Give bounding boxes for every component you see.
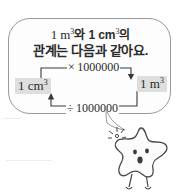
mascot-right-eye [145, 149, 149, 154]
divide-operator-symbol: ÷ [67, 101, 74, 115]
conversion-diagram: × 1000000 ÷ 1000000 1 cm3 1 m3 [9, 61, 172, 113]
unit-chip-cubic-centimeter: 1 cm3 [15, 78, 51, 94]
divide-arrowhead-icon [48, 93, 54, 100]
divide-operation-label: ÷ 1000000 [66, 102, 119, 114]
mascot-left-leg [129, 174, 132, 187]
mascot-left-foot [126, 187, 132, 189]
headline-l1-part2: 와 1 cm [74, 28, 115, 42]
mascot-right-foot [145, 187, 151, 189]
multiply-operation-label: × 1000000 [67, 61, 120, 73]
divide-factor-value: 1000000 [76, 101, 118, 115]
speech-bubble: 1 m3와 1 cm3의 관계는 다음과 같아요. × 1000000 ÷ 10… [8, 18, 171, 114]
unit-chip-cubic-meter: 1 m3 [137, 76, 167, 92]
unit-left-value: 1 cm [18, 78, 44, 93]
illustration-scene: 1 m3와 1 cm3의 관계는 다음과 같아요. × 1000000 ÷ 10… [0, 0, 179, 194]
page-speckle [3, 118, 21, 119]
headline-line-1: 1 m3와 1 cm3의 [9, 28, 172, 41]
star-mascot [108, 124, 176, 194]
mascot-mouth [137, 157, 142, 164]
unit-right-value: 1 m [140, 76, 160, 91]
multiply-arrowhead-icon [128, 74, 134, 80]
page-speckle [6, 160, 52, 161]
headline-line-2: 관계는 다음과 같아요. [9, 44, 172, 57]
mascot-body [115, 128, 167, 177]
multiply-factor-value: 1000000 [77, 60, 119, 74]
headline-l1-part1: 1 m [51, 27, 71, 42]
sparkle-center [115, 134, 118, 137]
multiply-operator-symbol: × [68, 60, 75, 74]
headline-l1-part3: 의 [119, 28, 130, 42]
mascot-left-eye [133, 150, 137, 155]
unit-left-exponent: 3 [44, 78, 48, 87]
unit-right-exponent: 3 [160, 76, 164, 85]
